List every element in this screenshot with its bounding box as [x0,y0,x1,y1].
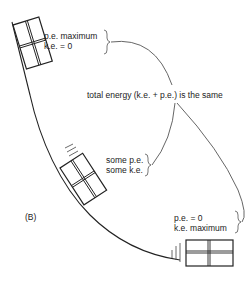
middle-ke-label: some k.e. [106,165,143,175]
connector-bottom [177,103,244,222]
block-middle [60,153,107,205]
top-ke-label: k.e. = 0 [44,41,72,51]
top-pe-label: p.e. maximum [44,31,97,41]
connector-top [111,41,172,85]
panel-label: (B) [25,212,36,222]
motion-lines-middle [65,144,78,156]
center-label: total energy (k.e. + p.e.) is the same [87,90,223,100]
brace-middle [145,154,151,176]
connector-middle [152,103,175,165]
brace-top [104,30,110,54]
middle-pe-label: some p.e. [106,155,143,165]
block-bottom [186,240,233,266]
bottom-ke-label: k.e. maximum [174,223,227,233]
diagram-canvas [0,0,250,289]
bottom-pe-label: p.e. = 0 [174,213,203,223]
brace-bottom [235,211,241,233]
